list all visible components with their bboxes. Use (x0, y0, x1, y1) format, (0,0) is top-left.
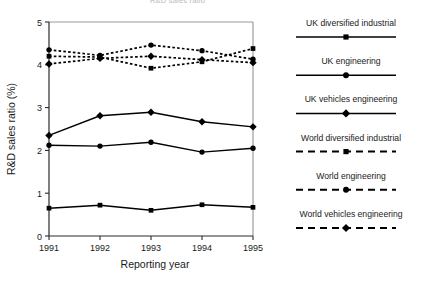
data-point-marker (249, 59, 256, 66)
y-axis-title: R&D sales ratio (%) (5, 83, 17, 175)
legend-marker (342, 224, 350, 232)
legend-sample-world-diversified-industrial (296, 149, 396, 154)
data-point-marker (97, 143, 102, 148)
x-axis-tick-label: 1993 (141, 243, 161, 253)
data-point-marker (148, 42, 153, 47)
legend-label-world-engineering: World engineering (316, 171, 386, 181)
data-point-marker (198, 56, 205, 63)
data-point-marker (45, 132, 52, 139)
y-axis-tick-label: 3 (37, 103, 42, 113)
legend-marker (343, 34, 348, 39)
data-point-marker (200, 202, 205, 207)
x-axis-tick-label: 1992 (90, 243, 110, 253)
data-point-marker (147, 53, 154, 60)
data-point-marker (47, 54, 52, 59)
x-axis-tick-label: 1991 (39, 243, 59, 253)
data-point-marker (199, 149, 204, 154)
data-point-marker (147, 109, 154, 116)
legend-sample-world-vehicles-engineering (296, 224, 396, 232)
legend-label-uk-engineering: UK engineering (321, 56, 380, 66)
y-axis-tick-label: 1 (37, 189, 42, 199)
data-point-marker (149, 66, 154, 71)
legend-label-uk-vehicles-engineering: UK vehicles engineering (305, 94, 398, 104)
legend-marker (343, 149, 348, 154)
data-point-marker (149, 208, 154, 213)
data-point-marker (96, 112, 103, 119)
data-point-marker (47, 206, 52, 211)
legend-marker (343, 72, 349, 78)
data-point-marker (198, 118, 205, 125)
line-chart: 01234519911992199319941995 UK diversifie… (0, 0, 439, 289)
data-point-marker (251, 46, 256, 51)
series-uk-diversified-industrial (47, 202, 256, 212)
legend-label-world-diversified-industrial: World diversified industrial (301, 133, 401, 143)
series-uk-engineering (46, 140, 255, 155)
data-point-marker (199, 48, 204, 53)
legend-marker (342, 109, 350, 117)
legend-sample-uk-engineering (296, 72, 396, 78)
data-point-marker (45, 60, 52, 67)
y-axis-tick-label: 4 (37, 60, 42, 70)
data-point-marker (46, 143, 51, 148)
legend-label-uk-diversified-industrial: UK diversified industrial (306, 18, 396, 28)
data-point-marker (249, 123, 256, 130)
legend-sample-world-engineering (296, 187, 396, 193)
x-axis-tick-label: 1995 (243, 243, 263, 253)
legend-label-world-vehicles-engineering: World vehicles engineering (299, 209, 402, 219)
y-axis-tick-label: 2 (37, 146, 42, 156)
data-point-marker (148, 140, 153, 145)
x-axis-tick-label: 1994 (192, 243, 212, 253)
y-axis-tick-label: 5 (37, 18, 42, 28)
data-point-marker (250, 146, 255, 151)
legend-marker (343, 187, 349, 193)
legend-sample-uk-vehicles-engineering (296, 109, 396, 117)
data-point-marker (251, 205, 256, 210)
data-point-marker (98, 203, 103, 208)
data-point-marker (46, 47, 51, 52)
legend-sample-uk-diversified-industrial (296, 34, 396, 39)
x-axis-title: Reporting year (121, 258, 190, 270)
chart-figure: R&D sales ratio 012345199119921993199419… (0, 0, 439, 289)
y-axis-tick-label: 0 (37, 232, 42, 242)
series-uk-vehicles-engineering (45, 109, 256, 140)
